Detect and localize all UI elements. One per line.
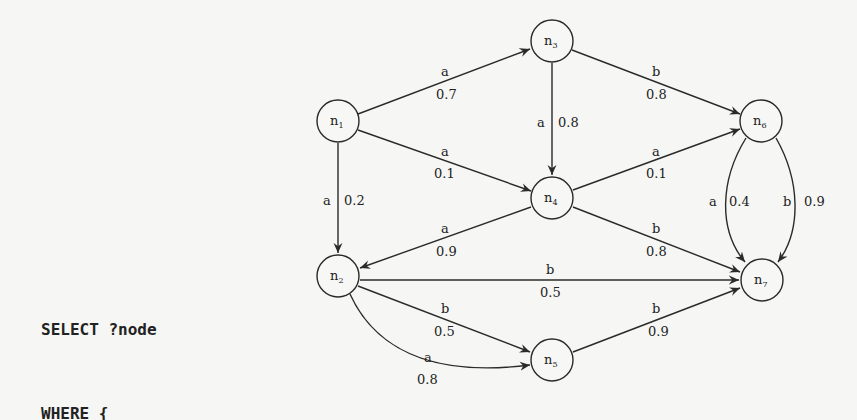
label-n6-n7-b-symbol: b	[783, 194, 791, 209]
label-n4-n6-symbol: a	[652, 144, 660, 159]
node-n5: n5	[531, 339, 573, 381]
node-n2: n2	[317, 255, 359, 297]
edge-n4-n7	[573, 207, 740, 272]
label-n4-n7-symbol: b	[652, 221, 660, 236]
label-n2-n7-prob: 0.5	[540, 285, 561, 300]
label-n3-n6-symbol: b	[652, 64, 660, 79]
edge-n5-n7	[573, 288, 740, 352]
edge-n1-n4	[358, 130, 531, 191]
label-n6-n7-a-prob: 0.4	[729, 194, 750, 209]
node-n6: n6	[740, 100, 782, 142]
label-n2-n5-a-symbol: a	[424, 350, 432, 365]
label-n3-n6-prob: 0.8	[646, 87, 667, 102]
sparql-query: SELECT ?node WHERE { n1 a+ ?node ?node b…	[41, 260, 214, 420]
label-n1-n4-prob: 0.1	[434, 166, 455, 181]
node-n4: n4	[531, 177, 573, 219]
label-n2-n5-a-prob: 0.8	[417, 372, 438, 387]
label-n1-n2-symbol: a	[323, 193, 331, 208]
edge-n2-n5-b	[358, 286, 530, 352]
label-n1-n4-symbol: a	[441, 144, 449, 159]
label-n2-n5-b-symbol: b	[441, 301, 449, 316]
label-n4-n7-prob: 0.8	[646, 244, 667, 259]
label-n6-n7-a-symbol: a	[709, 194, 717, 209]
label-n6-n7-b-prob: 0.9	[804, 194, 825, 209]
label-n4-n6-prob: 0.1	[646, 166, 667, 181]
label-n2-n5-b-prob: 0.5	[434, 324, 455, 339]
label-n2-n7-symbol: b	[546, 262, 554, 277]
node-n7: n7	[741, 259, 783, 301]
node-n1: n1	[317, 100, 359, 142]
label-n5-n7-symbol: b	[652, 301, 660, 316]
node-n3: n3	[531, 20, 573, 62]
label-n4-n2-symbol: a	[441, 221, 449, 236]
label-n5-n7-prob: 0.9	[648, 324, 669, 339]
query-line-where: WHERE {	[41, 400, 214, 420]
label-n3-n4-prob: 0.8	[558, 115, 579, 130]
label-n1-n3-prob: 0.7	[436, 87, 457, 102]
label-n1-n2-prob: 0.2	[344, 193, 365, 208]
edge-n1-n3	[358, 49, 530, 114]
label-n3-n4-symbol: a	[537, 115, 545, 130]
query-line-select: SELECT ?node	[41, 316, 214, 344]
label-n4-n2-prob: 0.9	[436, 244, 457, 259]
edge-n3-n6	[572, 50, 740, 114]
label-n1-n3-symbol: a	[441, 64, 449, 79]
